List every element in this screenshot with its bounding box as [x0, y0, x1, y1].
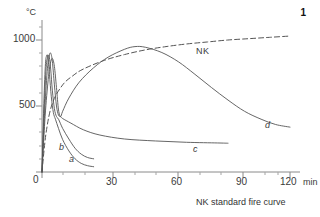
x-axis-tick-label-60: 60: [171, 177, 182, 187]
y-axis-unit-label: °C: [26, 8, 36, 17]
chart-canvas: [0, 0, 320, 217]
y-axis-major-ticks: [36, 40, 42, 172]
series-label-a: a: [69, 155, 74, 164]
y-axis-tick-label-500: 500: [19, 100, 36, 110]
figure-caption: NK standard fire curve: [196, 198, 286, 207]
curve-d: [42, 46, 290, 172]
figure-number: 1: [300, 8, 306, 18]
series-label-c: c: [193, 145, 198, 154]
series-label-b: b: [59, 143, 64, 152]
x-axis-tick-label-90: 90: [236, 177, 247, 187]
series-label-d: d: [265, 121, 270, 130]
series-label-nk: NK: [196, 47, 210, 56]
y-axis-tick-label-1000: 1000: [13, 34, 35, 44]
data-curves-group: [42, 36, 290, 172]
y-axis-tick-label-0: 0: [33, 175, 39, 185]
x-axis-tick-label-120: 120: [280, 177, 297, 187]
figure-container: °C 1000 500 0 30 60 90 120 min NK a b c …: [0, 0, 320, 217]
x-axis-major-ticks: [42, 172, 290, 178]
x-axis-tick-label-30: 30: [106, 177, 117, 187]
x-axis-unit-label: min: [303, 178, 318, 187]
curve-nk: [42, 36, 290, 172]
